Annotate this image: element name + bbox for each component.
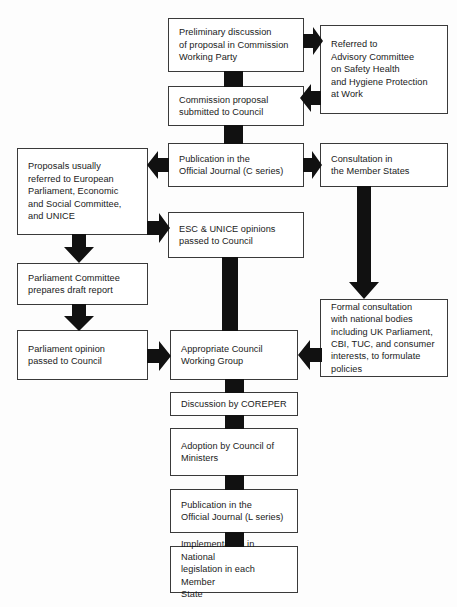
arrow-publication-c-to-proposals-referred [147,150,169,180]
node-publication-l-series: Publication in the Official Journal (L s… [170,489,298,533]
node-publication-c-series: Publication in the Official Journal (C s… [168,143,304,187]
node-proposals-referred: Proposals usually referred to European P… [17,148,148,235]
arrow-proposals-referred-to-esc-unice [147,212,170,244]
arrow-parliament-opinion-to-council-wg [147,340,171,372]
arrow-proposals-referred-to-parliament-committee [63,234,95,264]
node-appropriate-council-working-group: Appropriate Council Working Group [170,330,298,380]
node-label: ESC & UNICE opinions passed to Council [179,223,276,248]
node-label: Formal consultation with national bodies… [331,301,435,375]
node-label: Publication in the Official Journal (C s… [179,153,283,178]
node-label: Publication in the Official Journal (L s… [181,499,283,524]
node-label: Parliament opinion passed to Council [28,343,105,368]
node-preliminary-discussion: Preliminary discussion of proposal in Co… [168,18,304,72]
node-label: Commission proposal submitted to Council [179,94,268,119]
connector-commission-to-publication-c [224,125,243,144]
arrow-parliament-committee-to-parliament-opinion [63,304,95,332]
node-parliament-committee: Parliament Committee prepares draft repo… [17,263,148,305]
connector-publication-l-to-implementation [225,532,244,547]
connector-council-wg-to-coreper [225,379,244,393]
flowchart-canvas: Preliminary discussion of proposal in Co… [0,0,457,607]
connector-coreper-to-adoption [225,415,244,429]
node-label: Proposals usually referred to European P… [28,160,121,222]
node-label: Implementation in National legislation i… [181,538,291,600]
arrow-referred-advisory-to-commission-proposal [300,83,321,113]
node-label: Parliament Committee prepares draft repo… [28,272,120,297]
node-formal-consultation: Formal consultation with national bodies… [320,299,448,377]
node-parliament-opinion: Parliament opinion passed to Council [17,330,148,380]
node-label: Discussion by COREPER [181,398,287,410]
arrow-esc-unice-to-council-wg [222,257,238,331]
node-esc-unice-opinions: ESC & UNICE opinions passed to Council [168,212,304,258]
arrow-consultation-member-states-to-formal-consultation [348,186,380,300]
node-commission-proposal: Commission proposal submitted to Council [168,86,304,126]
node-referred-advisory-committee: Referred to Advisory Committee on Safety… [320,25,448,114]
node-discussion-coreper: Discussion by COREPER [170,392,298,416]
node-label: Referred to Advisory Committee on Safety… [331,38,428,100]
arrow-preliminary-to-referred-advisory [303,26,323,56]
node-adoption-council-ministers: Adoption by Council of Ministers [170,428,298,476]
node-label: Preliminary discussion of proposal in Co… [179,26,289,63]
node-consultation-member-states: Consultation in the Member States [320,143,448,187]
connector-preliminary-to-commission [224,71,243,87]
arrow-formal-consultation-to-council-wg [298,339,322,371]
node-label: Adoption by Council of Ministers [181,440,274,465]
arrow-publication-c-to-consultation-member-states [303,150,322,180]
connector-adoption-to-publication-l [225,475,244,490]
node-implementation-national: Implementation in National legislation i… [170,546,298,593]
node-label: Appropriate Council Working Group [181,343,263,368]
node-label: Consultation in the Member States [331,153,409,178]
